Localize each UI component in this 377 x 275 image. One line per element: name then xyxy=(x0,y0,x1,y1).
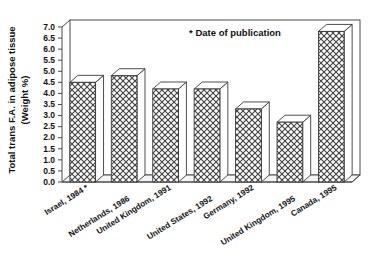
bar xyxy=(153,82,187,182)
y-axis-title-line1: Total trans F.A. in adipose tissue xyxy=(6,26,17,173)
bar-front-face xyxy=(111,76,137,182)
y-axis-title-line2: (Weight %) xyxy=(19,76,30,125)
bar-side-face xyxy=(344,24,352,182)
bar-side-face xyxy=(261,102,269,182)
bar-front-face xyxy=(318,31,344,182)
y-axis-tick-label: 1.0 xyxy=(43,155,55,165)
bar xyxy=(236,102,270,182)
y-axis-tick-label: 6.5 xyxy=(43,33,55,43)
chart-container: 7.06.56.05.55.04.54.03.53.02.52.01.51.00… xyxy=(0,0,377,275)
bar xyxy=(194,82,228,182)
bar-front-face xyxy=(236,109,262,182)
bar xyxy=(111,69,145,182)
publication-date-note: * Date of publication xyxy=(189,27,281,38)
x-axis-category-labels: Israel, 1984 *Netherlands, 1986United Ki… xyxy=(43,183,339,248)
bar-side-face xyxy=(303,115,311,182)
bar xyxy=(70,75,104,182)
bar-side-face xyxy=(220,82,228,182)
y-axis-tick-label: 4.0 xyxy=(43,88,55,98)
y-axis-tick-label: 2.0 xyxy=(43,132,55,142)
y-axis-tick-label: 5.0 xyxy=(43,66,55,76)
bar xyxy=(277,115,311,182)
y-axis-tick-label: 3.5 xyxy=(43,99,55,109)
bar-front-face xyxy=(70,82,96,182)
x-axis-category-label: Israel, 1984 * xyxy=(43,183,91,217)
bar-front-face xyxy=(153,89,179,182)
y-axis-tick-label: 1.5 xyxy=(43,144,55,154)
y-axis-title: Total trans F.A. in adipose tissue (Weig… xyxy=(6,26,30,173)
frame-depth-edge-top xyxy=(62,20,70,27)
x-axis-category-label: Canada, 1995 xyxy=(289,183,339,219)
bar-side-face xyxy=(178,82,186,182)
y-axis-tick-label: 4.5 xyxy=(43,77,55,87)
bar-front-face xyxy=(194,89,220,182)
y-axis-tick-label: 5.5 xyxy=(43,55,55,65)
y-axis-tick-label: 7.0 xyxy=(43,22,55,32)
y-axis-tick-label: 6.0 xyxy=(43,44,55,54)
y-axis-tick-label: 0.5 xyxy=(43,166,55,176)
bar-chart-svg: 7.06.56.05.55.04.54.03.53.02.52.01.51.00… xyxy=(0,0,377,275)
y-axis-tick-label: 0.0 xyxy=(43,177,55,187)
bar-side-face xyxy=(137,69,145,182)
bar-side-face xyxy=(96,75,104,182)
bar xyxy=(318,24,352,182)
y-axis-tick-label: 3.0 xyxy=(43,110,55,120)
y-axis: 7.06.56.05.55.04.54.03.53.02.52.01.51.00… xyxy=(43,22,62,187)
bar-front-face xyxy=(277,122,303,182)
y-axis-tick-label: 2.5 xyxy=(43,121,55,131)
